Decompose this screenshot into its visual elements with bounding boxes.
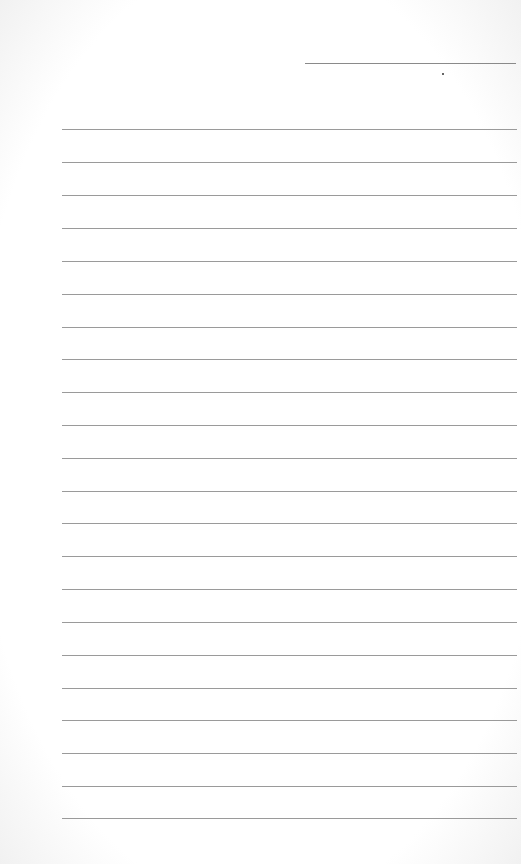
ruled-line: [62, 162, 517, 163]
ruled-line: [62, 261, 517, 262]
ruled-line: [62, 523, 517, 524]
ruled-line: [62, 589, 517, 590]
ruled-line: [62, 818, 517, 819]
stray-dot-mark: [442, 73, 444, 75]
ruled-line: [62, 228, 517, 229]
ruled-line: [62, 129, 517, 130]
ruled-line: [62, 556, 517, 557]
ruled-line: [62, 458, 517, 459]
ruled-line: [62, 392, 517, 393]
ruled-line: [62, 327, 517, 328]
ruled-line: [62, 655, 517, 656]
ruled-line: [62, 491, 517, 492]
header-write-line: [305, 63, 516, 64]
ruled-line: [62, 359, 517, 360]
lined-paper-page: [0, 0, 521, 864]
ruled-line: [62, 294, 517, 295]
ruled-line: [62, 720, 517, 721]
ruled-line: [62, 688, 517, 689]
ruled-line: [62, 786, 517, 787]
ruled-line: [62, 425, 517, 426]
ruled-line: [62, 195, 517, 196]
ruled-line: [62, 622, 517, 623]
ruled-line: [62, 753, 517, 754]
